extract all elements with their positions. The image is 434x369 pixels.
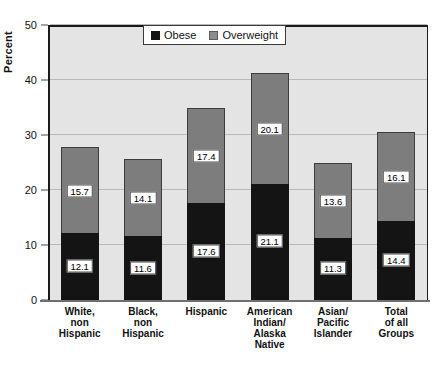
y-axis-tick-mark	[41, 245, 48, 246]
x-axis-label-line: Islander	[299, 328, 367, 339]
y-axis-title: Percent	[2, 0, 14, 112]
x-axis-label-line: non	[109, 317, 177, 328]
bar-segment-obese: 11.6	[124, 236, 162, 300]
x-axis-label-line: Hispanic	[109, 328, 177, 339]
x-axis-label: Hispanic	[172, 306, 240, 317]
bar-segment-obese: 12.1	[61, 233, 99, 300]
x-axis-label-line: Hispanic	[172, 306, 240, 317]
bar-segment-overweight: 20.1	[251, 73, 289, 184]
stacked-bar-chart: Percent 01020304050 15.712.114.111.617.4…	[0, 0, 434, 369]
legend-label-obese: Obese	[164, 29, 196, 41]
bar-segment-overweight: 17.4	[187, 108, 225, 204]
x-axis-label-line: Indian/	[236, 317, 304, 328]
y-axis-tick-mark	[41, 190, 48, 191]
bar-value-label-overweight: 17.4	[193, 149, 220, 162]
x-axis-label-line: non	[46, 317, 114, 328]
x-axis-label-line: White,	[46, 306, 114, 317]
bar-value-label-obese: 11.3	[320, 262, 346, 275]
x-axis-label-line: Total	[362, 306, 430, 317]
y-axis-tick-label: 40	[0, 74, 46, 86]
bar-group: 13.611.3	[314, 163, 352, 300]
bar-value-label-obese: 14.4	[383, 253, 410, 266]
x-axis-label-line: Native	[236, 339, 304, 350]
bar-segment-obese: 21.1	[251, 184, 289, 300]
bar-value-label-overweight: 15.7	[66, 184, 93, 197]
chart-legend: Obese Overweight	[143, 25, 286, 45]
bar-segment-obese: 14.4	[377, 221, 415, 300]
legend-label-overweight: Overweight	[222, 29, 278, 41]
bar-segment-overweight: 13.6	[314, 163, 352, 238]
bar-segment-obese: 11.3	[314, 238, 352, 300]
gray-square-icon	[209, 31, 218, 40]
bar-value-label-obese: 12.1	[66, 260, 93, 273]
y-axis-tick-label: 10	[0, 239, 46, 251]
bar-group: 15.712.1	[61, 147, 99, 300]
bar-segment-obese: 17.6	[187, 203, 225, 300]
bar-segment-overweight: 14.1	[124, 159, 162, 237]
x-axis-label: AmericanIndian/AlaskaNative	[236, 306, 304, 350]
bar-segment-overweight: 16.1	[377, 132, 415, 221]
x-axis-label-line: Alaska	[236, 328, 304, 339]
x-axis-label-line: Groups	[362, 328, 430, 339]
x-axis-label-line: Asian/	[299, 306, 367, 317]
bar-group: 14.111.6	[124, 159, 162, 300]
x-axis-label: White,nonHispanic	[46, 306, 114, 339]
x-axis-label: Black,nonHispanic	[109, 306, 177, 339]
bar-group: 17.417.6	[187, 108, 225, 300]
bar-value-label-obese: 21.1	[256, 235, 283, 248]
bar-value-label-obese: 17.6	[193, 245, 220, 258]
x-axis-baseline	[40, 300, 430, 302]
bar-group: 16.114.4	[377, 132, 415, 300]
x-axis-label-line: American	[236, 306, 304, 317]
x-axis-label: Totalof allGroups	[362, 306, 430, 339]
x-axis-label: Asian/PacificIslander	[299, 306, 367, 339]
bar-value-label-overweight: 16.1	[383, 171, 410, 184]
black-square-icon	[151, 31, 160, 40]
x-axis-label-line: Black,	[109, 306, 177, 317]
y-axis-tick-mark	[41, 135, 48, 136]
y-axis-tick-mark	[41, 80, 48, 81]
y-axis-tick-label: 30	[0, 129, 46, 141]
bar-group: 20.121.1	[251, 73, 289, 300]
bar-value-label-overweight: 20.1	[256, 123, 283, 136]
legend-item-overweight: Overweight	[209, 29, 278, 41]
bar-value-label-overweight: 13.6	[320, 194, 347, 207]
y-axis-tick-label: 20	[0, 184, 46, 196]
y-axis-tick-label: 50	[0, 19, 46, 31]
bar-value-label-obese: 11.6	[130, 261, 156, 274]
bar-series-container: 15.712.114.111.617.417.620.121.113.611.3…	[48, 25, 428, 300]
bar-segment-overweight: 15.7	[61, 147, 99, 233]
y-axis-tick-mark	[41, 25, 48, 26]
x-axis-label-line: Pacific	[299, 317, 367, 328]
x-axis-label-line: Hispanic	[46, 328, 114, 339]
legend-item-obese: Obese	[151, 29, 196, 41]
bar-value-label-overweight: 14.1	[130, 191, 157, 204]
x-axis-label-line: of all	[362, 317, 430, 328]
